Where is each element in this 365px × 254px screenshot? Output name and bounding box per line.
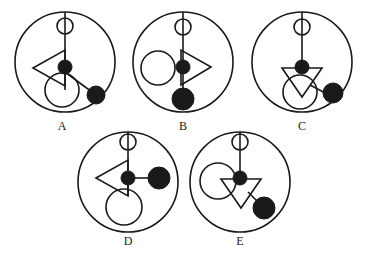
panel-d-right-filled-dot — [148, 167, 170, 189]
panel-d — [78, 132, 178, 232]
panel-a-lower-right-filled-dot — [87, 86, 105, 104]
figure-label-a: A — [52, 119, 72, 133]
panel-a — [15, 12, 115, 112]
panel-a-center-filled-dot — [58, 60, 72, 74]
panel-b-center-filled-dot — [176, 60, 190, 74]
panel-b-bottom-filled-dot — [172, 88, 194, 110]
panel-a-lower-open-circle — [45, 73, 79, 107]
panel-e-lower-right-filled-dot — [253, 197, 275, 219]
figure-label-b: B — [173, 119, 193, 133]
panel-d-center-filled-dot — [121, 171, 135, 185]
panel-b — [133, 12, 233, 112]
panel-e-center-filled-dot — [233, 171, 247, 185]
panel-c-center-filled-dot — [295, 60, 309, 74]
panel-c-lower-right-filled-dot — [323, 83, 343, 103]
figure-label-e: E — [230, 234, 250, 248]
panel-b-left-open-circle — [141, 51, 175, 85]
panel-e — [190, 132, 290, 232]
panel-c — [252, 12, 352, 112]
figure-label-d: D — [118, 234, 138, 248]
figure-label-c: C — [292, 119, 312, 133]
panel-c-lower-open-circle — [283, 75, 317, 109]
